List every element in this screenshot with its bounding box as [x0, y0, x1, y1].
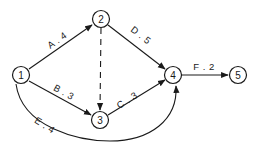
edge-c-label: C . 3 [115, 89, 140, 110]
edge-a: A . 4 [29, 25, 92, 69]
edge-d-label: D . 5 [129, 24, 154, 47]
edge-dummy [100, 28, 101, 110]
edge-d: D . 5 [108, 24, 165, 69]
edge-e-label: E . 4 [33, 114, 58, 135]
edge-b: B . 3 [29, 81, 91, 115]
activity-network-diagram: A . 4 B . 3 C . 3 D . 5 E . 4 F . 2 1 2 … [0, 0, 266, 148]
node-3-label: 3 [97, 115, 103, 126]
node-2-label: 2 [98, 14, 104, 25]
node-5: 5 [230, 67, 247, 84]
edge-c: C . 3 [108, 80, 165, 115]
node-4-label: 4 [170, 70, 176, 81]
node-1-label: 1 [18, 70, 24, 81]
edge-f-label: F . 2 [193, 61, 215, 72]
node-4: 4 [165, 67, 182, 84]
node-3: 3 [92, 112, 109, 129]
node-5-label: 5 [235, 70, 241, 81]
node-1: 1 [13, 67, 30, 84]
node-2: 2 [93, 11, 110, 28]
edge-a-label: A . 4 [45, 29, 69, 50]
edge-b-label: B . 3 [52, 82, 77, 102]
edge-dummy-arrow [100, 28, 101, 110]
edge-f: F . 2 [182, 61, 228, 76]
